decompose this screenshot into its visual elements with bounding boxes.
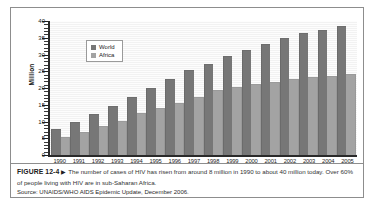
bar-group (165, 21, 184, 155)
legend-swatch-icon-africa (91, 53, 96, 58)
legend-label-africa: Africa (99, 52, 114, 58)
bar-africa-2003 (308, 77, 318, 155)
bar-world-2005 (337, 26, 347, 155)
bar-group (127, 21, 146, 155)
bar-group (51, 21, 70, 155)
bar-africa-2004 (327, 76, 337, 155)
bar-africa-1999 (232, 87, 242, 155)
bar-world-2000 (242, 50, 252, 155)
bar-africa-1998 (213, 90, 223, 155)
caption-text: The number of cases of HIV has risen fro… (17, 168, 353, 186)
bar-world-2003 (299, 33, 309, 155)
bar-africa-2002 (289, 79, 299, 155)
bar-group (204, 21, 223, 155)
bar-group (223, 21, 242, 155)
bar-group (318, 21, 337, 155)
bar-world-2004 (318, 30, 328, 155)
x-axis-line (48, 155, 357, 157)
bar-africa-2005 (346, 74, 356, 155)
bar-group (299, 21, 318, 155)
figure-number: FIGURE 12-4 (17, 168, 59, 175)
bar-world-2001 (261, 44, 271, 155)
chart-legend: World Africa (86, 40, 123, 62)
bar-world-1994 (127, 97, 137, 155)
bar-group (261, 21, 280, 155)
bar-world-1996 (165, 79, 175, 155)
bar-africa-1997 (194, 97, 204, 155)
legend-item-world: World (91, 44, 115, 50)
bar-africa-1991 (80, 132, 90, 155)
bar-world-1999 (223, 56, 233, 155)
bar-world-1993 (108, 106, 118, 155)
caption-divider (11, 163, 363, 164)
bar-africa-1990 (61, 137, 71, 155)
bar-world-1997 (184, 70, 194, 155)
bar-africa-1996 (175, 103, 185, 155)
bar-africa-2001 (270, 82, 280, 155)
bar-world-1995 (146, 88, 156, 155)
bar-group (337, 21, 356, 155)
figure-root: Million 4035302520151050 199019911992199… (0, 0, 377, 207)
bar-world-1990 (51, 129, 61, 155)
legend-label-world: World (99, 44, 115, 50)
legend-item-africa: Africa (91, 52, 115, 58)
bar-africa-1994 (137, 113, 147, 155)
bar-africa-2000 (251, 84, 261, 155)
bar-group (184, 21, 203, 155)
bar-africa-1995 (156, 108, 166, 155)
bar-africa-1992 (99, 126, 109, 155)
legend-swatch-icon-world (91, 45, 96, 50)
figure-caption: FIGURE 12-4▶The number of cases of HIV h… (17, 167, 359, 187)
bar-world-2002 (280, 38, 290, 155)
bar-world-1998 (204, 64, 214, 155)
bar-world-1992 (89, 114, 99, 155)
caption-arrow-icon: ▶ (59, 169, 68, 175)
bar-group (242, 21, 261, 155)
bar-group (146, 21, 165, 155)
bar-africa-1993 (118, 121, 128, 155)
figure-source: Source: UNAIDS/WHO AIDS Epidemic Update,… (17, 189, 359, 195)
bar-chart: Million 4035302520151050 199019911992199… (11, 9, 363, 161)
bar-world-1991 (70, 122, 80, 155)
bar-group (280, 21, 299, 155)
